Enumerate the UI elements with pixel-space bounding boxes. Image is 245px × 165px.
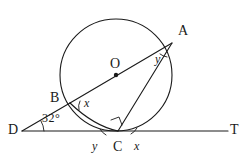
point-label-d: D	[8, 123, 18, 137]
geometry-diagram: A B C D O T 32° x y y x	[0, 0, 245, 165]
angle-arc-at-b	[79, 101, 80, 110]
angle-label-32-degrees: 32°	[42, 112, 60, 124]
point-label-b: B	[50, 91, 59, 105]
angle-label-x-at-b: x	[84, 97, 89, 109]
diagram-canvas	[0, 0, 245, 165]
point-label-a: A	[178, 24, 188, 38]
point-label-t: T	[230, 123, 239, 137]
point-label-o: O	[110, 57, 120, 71]
angle-label-x-at-c: x	[134, 140, 139, 152]
point-label-c: C	[113, 140, 122, 154]
right-angle-mark-at-c	[111, 117, 122, 125]
angle-label-y-at-a: y	[155, 53, 160, 65]
centre-dot-icon	[114, 73, 118, 77]
angle-label-y-at-c: y	[92, 140, 97, 152]
